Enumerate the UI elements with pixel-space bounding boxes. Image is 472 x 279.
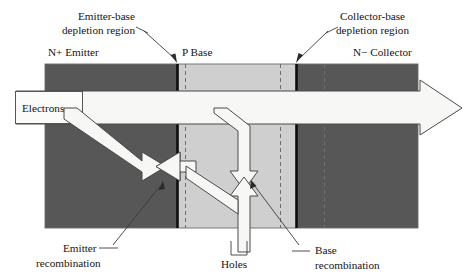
emitter-base-depletion-text-stub [136, 27, 148, 33]
emitter-base-depletion-leader [144, 31, 174, 58]
bjt-carrier-flow-figure: Electrons [0, 0, 472, 279]
collector-base-depletion-line2: depletion region [336, 24, 409, 36]
figure-canvas: Electrons [0, 0, 472, 279]
collector-region-label: N− Collector [353, 46, 412, 58]
emitter-base-depletion-line2: depletion region [62, 24, 135, 36]
collector-base-depletion-leader [300, 31, 328, 58]
emitter-recombination-line2: recombination [36, 257, 101, 269]
base-recombination-line2: recombination [315, 259, 380, 271]
emitter-recombination-line1: Emitter [63, 242, 97, 254]
electrons-label: Electrons [22, 102, 64, 114]
emitter-region-label: N+ Emitter [48, 46, 99, 58]
region-collector [296, 64, 418, 228]
base-recombination-line1: Base [315, 244, 337, 256]
emitter-base-depletion-arrowhead [171, 54, 178, 64]
holes-label: Holes [221, 258, 247, 270]
collector-base-depletion-line1: Collector-base [340, 10, 405, 22]
base-region-label: P Base [182, 46, 212, 58]
collector-base-depletion-arrowhead [296, 53, 303, 63]
emitter-base-depletion-line1: Emitter-base [78, 10, 135, 22]
